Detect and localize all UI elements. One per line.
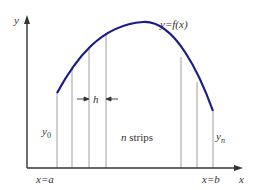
h-label: h xyxy=(93,93,99,105)
curve-f-of-x xyxy=(57,22,213,111)
y0-label: y0 xyxy=(41,125,51,140)
y-axis-label: y xyxy=(13,14,19,26)
x-axis-arrow-icon xyxy=(234,165,243,171)
x-equals-b-label: x=b xyxy=(201,173,220,185)
yn-label: yn xyxy=(215,130,225,145)
strip-lines xyxy=(57,33,213,168)
y-axis-arrow-icon xyxy=(24,15,30,24)
x-equals-a-label: x=a xyxy=(35,173,54,185)
strip-diagram: y x y=f(x) h y0 yn n strips x=a x=b xyxy=(0,0,260,190)
curve-label: y=f(x) xyxy=(159,18,188,31)
axes xyxy=(27,22,236,168)
n-strips-label: n strips xyxy=(121,131,153,143)
x-axis-label: x xyxy=(238,173,244,185)
